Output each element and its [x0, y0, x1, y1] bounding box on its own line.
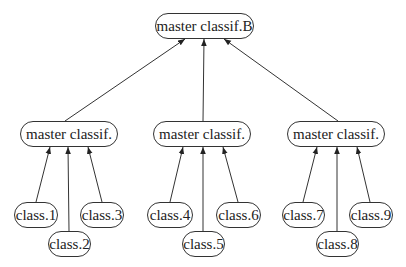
- arrow-m3-to-root: [224, 39, 338, 121]
- node-master-classifier-2: master classif.: [153, 121, 251, 147]
- node-class-3: class.3: [80, 202, 124, 228]
- node-class-2: class.2: [48, 231, 91, 257]
- node-master-classifier-1: master classif.: [20, 121, 118, 147]
- arrow-c1-to-m1: [36, 147, 50, 202]
- arrow-m2-to-root: [203, 39, 204, 121]
- node-class-4: class.4: [147, 202, 193, 228]
- arrow-c4-to-m2: [170, 147, 183, 202]
- node-class-1: class.1: [14, 202, 58, 228]
- node-class-9: class.9: [349, 202, 393, 228]
- node-class-6: class.6: [216, 202, 261, 228]
- arrow-m1-to-root: [65, 39, 185, 121]
- node-master-classifier-3: master classif.: [287, 121, 385, 147]
- node-class-5: class.5: [182, 231, 225, 257]
- arrow-c9-to-m3: [357, 147, 370, 202]
- arrow-c2-to-m1: [68, 147, 69, 231]
- node-class-8: class.8: [316, 231, 359, 257]
- node-class-7: class.7: [282, 202, 325, 228]
- arrow-c7-to-m3: [303, 147, 317, 202]
- arrow-c3-to-m1: [88, 147, 102, 202]
- node-root-master-classifier-b: master classif.B: [155, 13, 254, 39]
- arrow-c6-to-m2: [223, 147, 238, 202]
